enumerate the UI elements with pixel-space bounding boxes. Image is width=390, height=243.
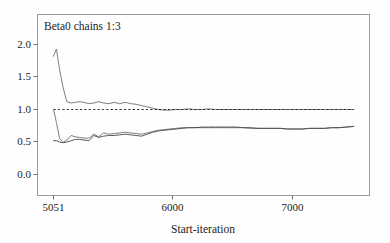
page-title: Beta0 chains 1:3 xyxy=(44,20,121,32)
x-axis-title: Start-iteration xyxy=(171,223,235,235)
x-tick-label-1: 6000 xyxy=(162,201,185,213)
chart-container: 0.0 0.5 1.0 1.5 2.0 5051 6000 7000 Start… xyxy=(0,0,390,243)
bgr-convergence-plot: 0.0 0.5 1.0 1.5 2.0 5051 6000 7000 Start… xyxy=(0,0,390,243)
x-tick-label-2: 7000 xyxy=(282,201,305,213)
x-tick-label-0: 5051 xyxy=(43,201,65,213)
y-tick-label-4: 2.0 xyxy=(17,38,31,50)
y-tick-label-0: 0.0 xyxy=(17,168,31,180)
y-tick-label-3: 1.5 xyxy=(17,70,31,82)
y-tick-label-2: 1.0 xyxy=(17,103,31,115)
y-tick-label-1: 0.5 xyxy=(17,135,31,147)
